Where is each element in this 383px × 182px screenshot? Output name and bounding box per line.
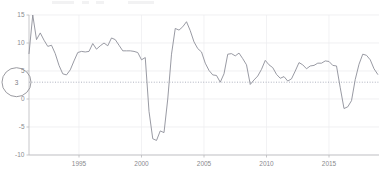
x-tick-label: 2015 [322, 160, 337, 167]
x-tick-label: 2000 [134, 160, 149, 167]
x-gridlines [79, 15, 329, 155]
y-tick-label: -5 [19, 123, 25, 130]
y-tick-label: 0 [21, 95, 25, 102]
highlight-circle-label: 3 [15, 79, 19, 86]
y-tick-label: 15 [17, 11, 25, 18]
chart-container: 151050-5-10 19952000200520102015 3 [0, 0, 383, 182]
x-axis-tick-labels: 19952000200520102015 [72, 160, 337, 167]
line-chart-plot: 151050-5-10 19952000200520102015 3 [0, 0, 383, 182]
y-tick-label: 10 [17, 39, 25, 46]
x-tick-label: 2005 [197, 160, 212, 167]
data-series-line [29, 15, 378, 140]
y-tick-label: -10 [15, 151, 25, 158]
x-tick-label: 1995 [72, 160, 87, 167]
x-tick-label: 2010 [259, 160, 274, 167]
